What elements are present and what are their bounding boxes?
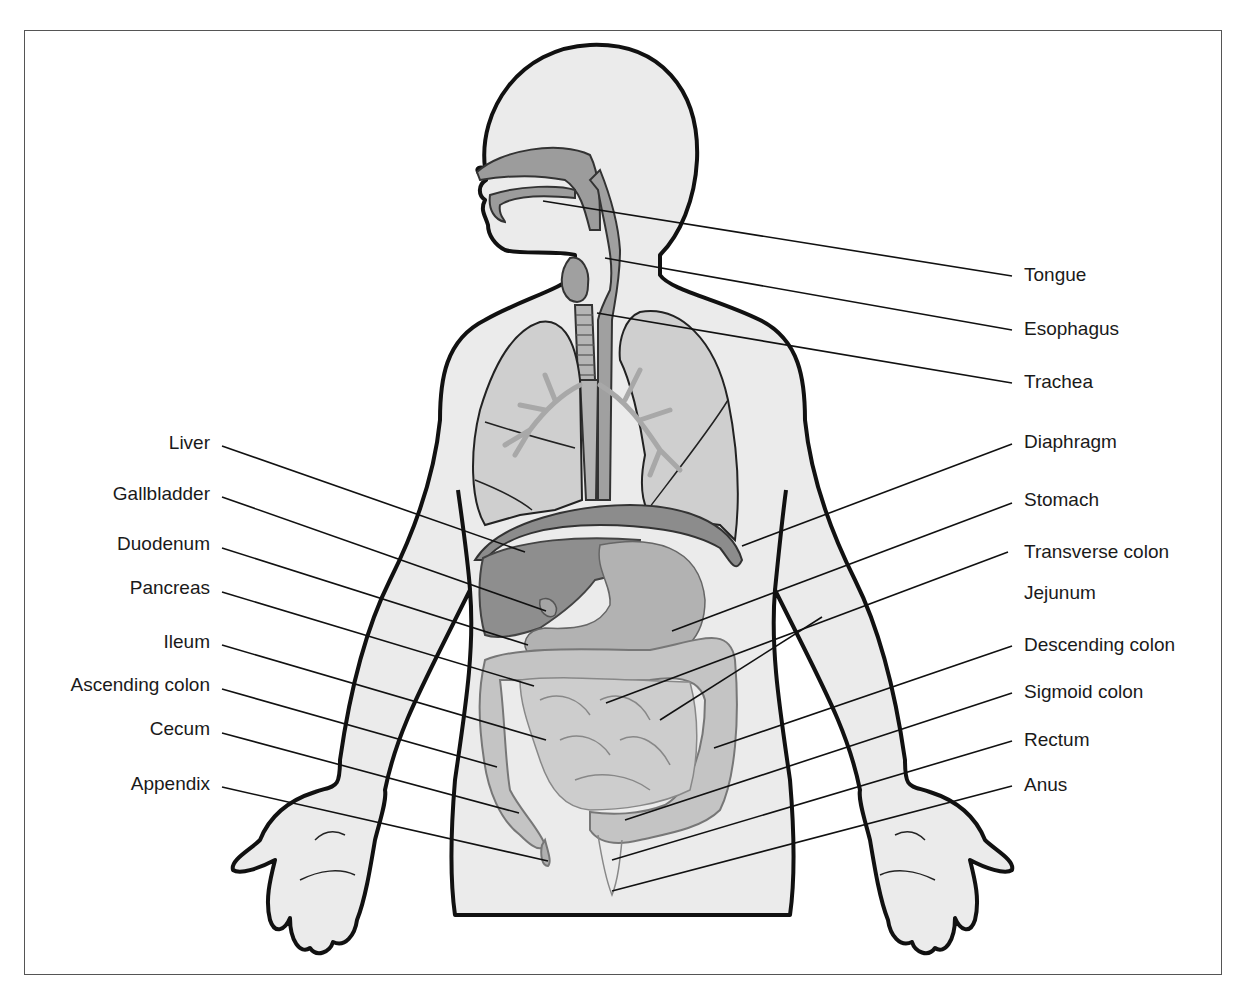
label-duodenum: Duodenum: [117, 533, 210, 555]
label-sigmoid-colon: Sigmoid colon: [1024, 681, 1143, 703]
label-rectum: Rectum: [1024, 729, 1089, 751]
label-pancreas: Pancreas: [130, 577, 210, 599]
label-liver: Liver: [169, 432, 210, 454]
label-anus: Anus: [1024, 774, 1067, 796]
label-diaphragm: Diaphragm: [1024, 431, 1117, 453]
label-cecum: Cecum: [150, 718, 210, 740]
label-transverse-colon: Transverse colon: [1024, 541, 1169, 563]
label-trachea: Trachea: [1024, 371, 1093, 393]
label-tongue: Tongue: [1024, 264, 1086, 286]
label-appendix: Appendix: [131, 773, 210, 795]
label-ileum: Ileum: [164, 631, 210, 653]
label-esophagus: Esophagus: [1024, 318, 1119, 340]
label-ascending-colon: Ascending colon: [71, 674, 210, 696]
label-gallbladder: Gallbladder: [113, 483, 210, 505]
label-stomach: Stomach: [1024, 489, 1099, 511]
label-jejunum: Jejunum: [1024, 582, 1096, 604]
label-descending-colon: Descending colon: [1024, 634, 1175, 656]
